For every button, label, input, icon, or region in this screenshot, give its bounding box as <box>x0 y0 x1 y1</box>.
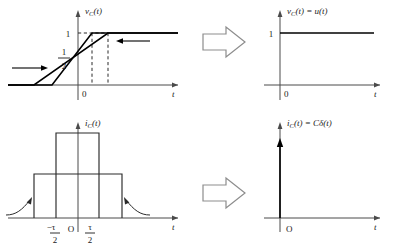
transition-arrow-bottom <box>202 175 248 213</box>
block-arrow-right-icon <box>203 178 245 208</box>
x-axis-arrowhead <box>374 216 380 221</box>
transition-arrow-top <box>202 24 248 62</box>
x-axis-label-bottom-left: t <box>172 222 175 232</box>
panel-top-right: vC(t) = u(t) t 0 1 <box>248 0 393 112</box>
y-axis-arrowhead <box>76 122 81 129</box>
tau-half-numerator: τ <box>88 222 92 232</box>
tick-label-neg-tau-half: −τ 2 <box>47 222 60 245</box>
y-axis-arrowhead <box>76 10 81 17</box>
y-axis-label-bottom-left: iC(t) <box>85 118 100 129</box>
y-axis-arrowhead <box>278 122 283 129</box>
pulse-right-callout-shaft <box>126 200 150 215</box>
y-axis-label-top-left: vC(t) <box>85 6 102 17</box>
block-arrow-top-svg <box>202 24 248 62</box>
origin-label-top-left: 0 <box>82 89 87 99</box>
x-axis-arrowhead <box>172 83 178 88</box>
bottom-left-plot: iC(t) t O −τ 2 τ 2 <box>0 112 200 245</box>
x-axis-label-bottom-right: t <box>374 222 377 232</box>
x-axis-arrowhead <box>172 216 178 221</box>
x-axis-label-top-right: t <box>374 89 377 99</box>
impulse-arrowhead <box>277 138 283 147</box>
wide-ramp-curve <box>8 33 178 85</box>
neg-tau-half-denominator: 2 <box>53 235 58 245</box>
tau-half-denominator: 2 <box>88 235 93 245</box>
y-tick-label-one-right: 1 <box>269 29 274 39</box>
block-arrow-bottom-svg <box>202 175 248 213</box>
panel-bottom-left: iC(t) t O −τ 2 τ 2 <box>0 112 200 245</box>
y-tick-label-one: 1 <box>66 29 71 39</box>
plateau-arrow-head <box>116 38 123 44</box>
top-left-plot: vC(t) t 0 1 1 2 <box>0 0 200 112</box>
origin-label-top-right: 0 <box>284 89 289 99</box>
half-numerator: 1 <box>62 47 67 57</box>
ramp-lower-arrow-head <box>41 65 48 71</box>
origin-label-bottom-right: O <box>286 224 293 234</box>
bottom-right-plot: iC(t) = Cδ(t) t O <box>248 112 393 245</box>
narrow-ramp-curve <box>8 33 178 85</box>
tick-label-tau-half: τ 2 <box>85 222 95 245</box>
x-axis-label-top-left: t <box>172 89 175 99</box>
block-arrow-right-icon <box>203 27 245 57</box>
neg-tau-half-numerator: −τ <box>47 222 56 232</box>
y-axis-label-bottom-right: iC(t) = Cδ(t) <box>287 118 332 129</box>
y-axis-label-top-right: vC(t) = u(t) <box>287 6 327 17</box>
x-axis-arrowhead <box>374 83 380 88</box>
origin-label-bottom-left: O <box>68 224 75 234</box>
pulse-left-callout-shaft <box>6 200 30 215</box>
top-right-plot: vC(t) = u(t) t 0 1 <box>248 0 393 112</box>
half-denominator: 2 <box>62 61 67 71</box>
figure-container: vC(t) t 0 1 1 2 <box>0 0 393 245</box>
panel-bottom-right: iC(t) = Cδ(t) t O <box>248 112 393 245</box>
y-axis-arrowhead <box>278 10 283 17</box>
panel-top-left: vC(t) t 0 1 1 2 <box>0 0 200 112</box>
